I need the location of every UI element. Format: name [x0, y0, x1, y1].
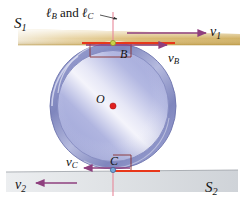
label-point-b: B [120, 48, 127, 60]
label-surface-s1: S1 [14, 16, 27, 33]
point-o-dot [110, 103, 116, 109]
surface-s2 [6, 170, 238, 192]
leader-arrow-lb-lc [100, 15, 117, 19]
label-line-lb-lc: ℓB and ℓC [46, 6, 93, 21]
label-vector-vc: vC [66, 155, 78, 170]
label-surface-s2: S2 [205, 180, 218, 197]
label-vector-v2: v2 [15, 178, 26, 194]
diagram-canvas [0, 0, 243, 207]
label-point-c: C [110, 155, 118, 167]
point-c-dot [110, 167, 115, 172]
label-vector-vb: vB [168, 51, 179, 66]
label-vector-v1: v1 [210, 25, 221, 41]
physics-diagram-figure: S1 S2 ℓB and ℓC v1 vB vC v2 O B C [0, 0, 243, 207]
point-b-dot [110, 40, 115, 45]
label-point-o: O [96, 93, 105, 105]
